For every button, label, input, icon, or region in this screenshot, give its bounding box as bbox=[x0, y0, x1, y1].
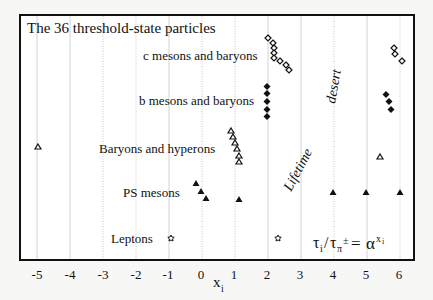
svg-text:-2: -2 bbox=[131, 267, 142, 282]
svg-text:2: 2 bbox=[264, 267, 271, 282]
svg-text:x: x bbox=[376, 233, 381, 244]
svg-text:-1: -1 bbox=[163, 267, 174, 282]
chart-title: The 36 threshold-state particles bbox=[27, 20, 216, 36]
svg-text:4: 4 bbox=[330, 267, 337, 282]
svg-text:τ: τ bbox=[330, 234, 337, 251]
row-label-c-mesons: c mesons and baryons bbox=[143, 48, 257, 63]
svg-text:-5: -5 bbox=[32, 267, 43, 282]
svg-text:i: i bbox=[320, 243, 323, 254]
scatter-chart: The 36 threshold-state particles c meson… bbox=[0, 0, 433, 300]
row-label-leptons: Leptons bbox=[111, 231, 153, 246]
svg-text:-4: -4 bbox=[65, 267, 76, 282]
row-label-ps-mesons: PS mesons bbox=[123, 185, 180, 200]
svg-text:1: 1 bbox=[231, 267, 238, 282]
svg-text:6: 6 bbox=[396, 267, 403, 282]
svg-text:3: 3 bbox=[297, 267, 304, 282]
svg-text:x: x bbox=[213, 274, 221, 290]
svg-text:i: i bbox=[221, 283, 224, 294]
svg-text:α: α bbox=[366, 234, 375, 253]
svg-text:5: 5 bbox=[363, 267, 370, 282]
svg-text:π: π bbox=[337, 243, 342, 254]
x-axis-label: x i bbox=[213, 274, 224, 294]
svg-text:=: = bbox=[351, 234, 361, 253]
row-label-b-mesons: b mesons and baryons bbox=[139, 93, 254, 108]
svg-text:±: ± bbox=[343, 235, 349, 246]
svg-text:τ: τ bbox=[313, 234, 320, 251]
row-label-baryons: Baryons and hyperons bbox=[99, 141, 215, 156]
svg-text:-3: -3 bbox=[98, 267, 109, 282]
svg-text:0: 0 bbox=[198, 267, 205, 282]
svg-text:/: / bbox=[324, 234, 329, 251]
